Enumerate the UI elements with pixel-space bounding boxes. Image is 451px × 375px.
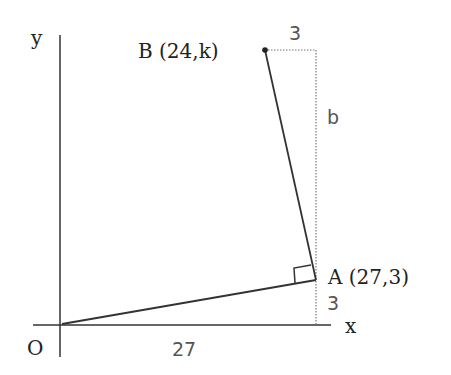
point-B-dot (262, 47, 268, 53)
dimension-3-vertical: 3 (327, 292, 339, 314)
origin-label: O (27, 336, 43, 360)
x-axis-label: x (345, 314, 357, 338)
point-A-label: A (27,3) (327, 265, 409, 289)
right-angle-marker (294, 265, 311, 283)
coordinate-diagram: y x O B (24,k) A (27,3) 27 3 3 b (0, 0, 451, 375)
dimension-27: 27 (172, 338, 196, 360)
dimension-3-horizontal: 3 (289, 22, 301, 44)
y-axis-label: y (30, 26, 43, 50)
segment-AB (265, 50, 316, 280)
point-B-label: B (24,k) (138, 39, 219, 63)
dimension-b: b (327, 106, 339, 128)
segment-OA (62, 280, 316, 324)
